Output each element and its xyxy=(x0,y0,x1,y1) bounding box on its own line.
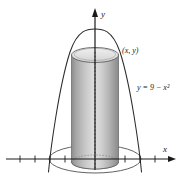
x-axis-arrowhead xyxy=(168,156,176,162)
solid-of-revolution-figure: y x (x, y) y = 9 − x² xyxy=(0,0,191,190)
figure-container: y x (x, y) y = 9 − x² xyxy=(0,0,191,190)
point-label: (x, y) xyxy=(122,46,139,55)
y-axis-label: y xyxy=(100,9,105,19)
curve-equation-label: y = 9 − x² xyxy=(136,83,170,92)
x-axis-label: x xyxy=(162,144,167,154)
y-axis-arrowhead xyxy=(92,8,98,17)
